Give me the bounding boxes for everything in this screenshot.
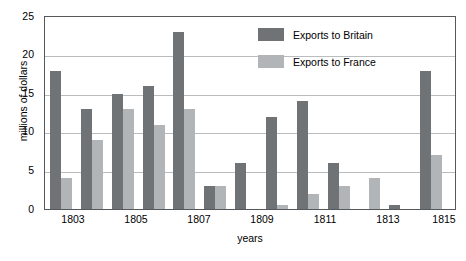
bar-group-1804 xyxy=(81,17,112,209)
bar-britain-1812 xyxy=(328,163,339,209)
bar-britain-1804 xyxy=(81,109,92,209)
bar-group-1807 xyxy=(173,17,204,209)
bar-france-1808 xyxy=(215,186,226,209)
bars-layer xyxy=(45,17,455,209)
bar-britain-1811 xyxy=(297,101,308,209)
x-axis: 1803 1805 1807 1809 1811 1813 1815 xyxy=(44,213,456,231)
bar-group-1808 xyxy=(204,17,235,209)
x-tick-label: 1807 xyxy=(187,213,210,225)
bar-france-1807 xyxy=(184,109,195,209)
x-axis-title: years xyxy=(44,232,456,244)
y-axis: 25 20 15 10 5 0 millions of dollars xyxy=(0,0,40,261)
bar-france-1805 xyxy=(123,109,134,209)
bar-france-1803 xyxy=(61,178,72,209)
x-tick-label: 1805 xyxy=(124,213,147,225)
x-tick-label: 1811 xyxy=(314,213,337,225)
legend-swatch-britain-icon xyxy=(258,28,284,41)
legend-item-france: Exports to France xyxy=(258,55,376,68)
y-axis-title: millions of dollars xyxy=(17,31,29,171)
x-tick-label: 1803 xyxy=(61,213,84,225)
y-tick-label: 5 xyxy=(28,165,34,175)
bar-britain-1808 xyxy=(204,186,215,209)
bar-britain-1806 xyxy=(143,86,154,209)
bar-group-1805 xyxy=(112,17,143,209)
chart-legend: Exports to Britain Exports to France xyxy=(258,28,376,68)
bar-france-1811 xyxy=(308,194,319,209)
x-tick-label: 1809 xyxy=(250,213,273,225)
bar-france-1812 xyxy=(339,186,350,209)
bar-group-1815 xyxy=(420,17,451,209)
bar-britain-1814 xyxy=(389,205,400,209)
bar-group-1803 xyxy=(50,17,81,209)
bar-britain-1815 xyxy=(420,71,431,209)
bar-britain-1803 xyxy=(50,71,61,209)
bar-britain-1807 xyxy=(173,32,184,209)
bar-group-1814 xyxy=(389,17,420,209)
bar-france-1804 xyxy=(92,140,103,209)
y-tick-label: 0 xyxy=(28,204,34,214)
x-tick-label: 1815 xyxy=(432,213,455,225)
plot-area xyxy=(44,16,456,210)
legend-label: Exports to Britain xyxy=(293,29,373,41)
bar-chart: 25 20 15 10 5 0 millions of dollars 1803… xyxy=(0,0,466,261)
x-tick-label: 1813 xyxy=(376,213,399,225)
legend-item-britain: Exports to Britain xyxy=(258,28,376,41)
y-tick-label: 25 xyxy=(22,11,34,21)
bar-britain-1805 xyxy=(112,94,123,209)
bar-britain-1810 xyxy=(266,117,277,209)
bar-britain-1809 xyxy=(235,163,246,209)
bar-france-1813 xyxy=(369,178,380,209)
legend-label: Exports to France xyxy=(293,56,376,68)
bar-france-1810 xyxy=(277,205,288,209)
bar-france-1815 xyxy=(431,155,442,209)
bar-group-1806 xyxy=(143,17,174,209)
bar-france-1806 xyxy=(154,125,165,209)
legend-swatch-france-icon xyxy=(258,55,284,68)
